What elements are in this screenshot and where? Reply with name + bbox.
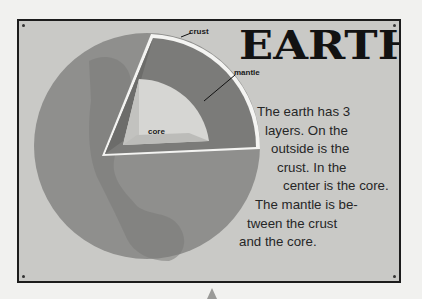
earth-poster: crust mantle core EARTH The earth has 3 … xyxy=(17,19,401,283)
description-line: tween the crust xyxy=(243,215,399,234)
mantle-label: mantle xyxy=(234,68,260,77)
core-label: core xyxy=(148,127,165,136)
description-line: center is the core. xyxy=(243,177,399,196)
description-line: crust. In the xyxy=(243,159,399,178)
poster-title: EARTH xyxy=(239,23,401,67)
description-line: outside is the xyxy=(243,140,399,159)
description-line: layers. On the xyxy=(243,122,399,141)
description-text: The earth has 3 layers. On the outside i… xyxy=(243,103,399,252)
description-line: and the core. xyxy=(239,233,399,252)
pointer-arrow-icon xyxy=(207,288,217,299)
crust-label: crust xyxy=(189,27,209,36)
description-line: The mantle is be- xyxy=(243,196,399,215)
description-line: The earth has 3 xyxy=(243,103,399,122)
